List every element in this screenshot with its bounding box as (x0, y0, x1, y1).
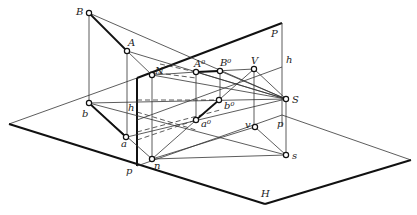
label-V: V (251, 55, 260, 66)
label-p-right: p (277, 118, 284, 129)
label-a: a (121, 138, 127, 149)
point-b (86, 100, 91, 105)
label-b: b (82, 108, 88, 119)
label-A0: A⁰ (193, 58, 205, 69)
label-h-left: h (128, 102, 134, 113)
point-s (283, 152, 288, 157)
point-A (124, 48, 129, 53)
label-n: n (154, 160, 160, 171)
point-A0 (193, 69, 198, 74)
label-a0: a⁰ (201, 118, 211, 129)
point-B (86, 10, 91, 15)
label-s: s (292, 150, 297, 161)
point-B0 (217, 68, 222, 73)
label-S: S (292, 94, 299, 105)
construction-lines (89, 13, 286, 159)
label-B0: B⁰ (219, 57, 231, 68)
label-N: N (154, 65, 165, 76)
point-V (251, 66, 256, 71)
point-N (149, 72, 154, 77)
point-S (283, 96, 288, 101)
diagram-canvas: B A N A⁰ B⁰ V S h P b h a n a⁰ b⁰ v p s … (0, 0, 417, 215)
label-B: B (75, 6, 83, 17)
label-H-plane: H (260, 188, 270, 199)
label-h-top: h (286, 54, 292, 65)
point-b0 (216, 97, 221, 102)
label-A: A (127, 37, 135, 48)
label-p-bottom: p (126, 165, 133, 176)
label-v: v (245, 119, 251, 130)
point-a0 (193, 117, 198, 122)
points (86, 10, 288, 161)
point-v (252, 124, 257, 129)
label-P-plane: P (270, 28, 278, 39)
label-b0: b⁰ (224, 100, 234, 111)
perspective-diagram: B A N A⁰ B⁰ V S h P b h a n a⁰ b⁰ v p s … (0, 0, 417, 215)
